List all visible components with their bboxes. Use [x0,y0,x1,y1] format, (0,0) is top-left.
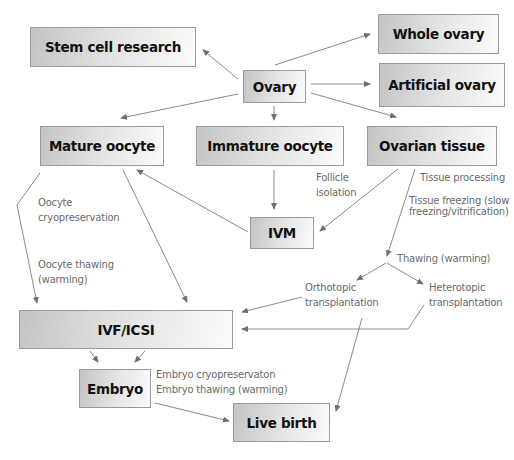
label-line: Tissue freezing (slow [409,195,509,206]
label-orthotopic-transplantation: Orthotopic transplantation [305,280,379,310]
arrow-thawing-to-heterotopic [387,263,423,284]
node-live-birth: Live birth [233,403,330,442]
label-line: Orthotopic [305,280,379,295]
label-line: Heterotopic [429,280,503,295]
label-line: isolation [316,185,356,200]
node-whole-ovary: Whole ovary [378,14,499,54]
node-label: IVM [268,225,296,241]
label-line: freezing/vitrification) [409,206,509,217]
arrow-ivf-to-embryo-2 [135,351,145,362]
arrow-thawing-to-orthotopic [357,263,386,280]
node-ovary: Ovary [243,70,306,103]
label-line: Embryo thawing (warming) [156,382,287,397]
node-label: Stem cell research [45,39,181,55]
label-line: Oocyte thawing [38,257,114,272]
label-line: Tissue processing [420,170,505,185]
node-label: IVF/ICSI [97,322,154,338]
arrow-embryo-to-livebirth [155,403,229,421]
label-tissue-processing: Tissue processing [420,170,505,185]
label-line: Embryo cryopreservaton [156,367,287,382]
node-stem-cell-research: Stem cell research [30,27,196,67]
label-follicle-isolation: Follicle isolation [316,170,356,200]
label-line: transplantation [429,295,503,310]
arrow-orthotopic-to-livebirth [336,318,362,411]
arrow-mature-cryo-to-ivf [17,173,40,303]
node-label: Live birth [247,415,317,431]
arrow-ovary-to-stem [203,50,238,79]
arrow-ivm-to-mature [137,170,248,232]
node-label: Embryo [87,381,143,397]
node-label: Ovarian tissue [379,138,485,154]
node-artificial-ovary: Artificial ovary [379,63,505,107]
label-oocyte-cryopreservation: Oocyte cryopreservation [38,195,120,225]
label-heterotopic-transplantation: Heterotopic transplantation [429,280,503,310]
arrow-ovary-to-mature [121,94,238,118]
node-ovarian-tissue: Ovarian tissue [367,126,497,166]
node-immature-oocyte: Immature oocyte [196,126,344,166]
label-line: transplantation [305,295,379,310]
node-label: Mature oocyte [49,138,155,154]
arrow-ivf-to-embryo-1 [90,351,98,362]
node-mature-oocyte: Mature oocyte [40,126,164,166]
arrow-ovary-to-whole [275,34,370,65]
label-line: (warming) [38,272,114,287]
node-label: Artificial ovary [388,77,496,93]
node-label: Immature oocyte [207,138,332,154]
label-oocyte-thawing: Oocyte thawing (warming) [38,257,114,287]
ovary-flow-diagram: Stem cell research Whole ovary Ovary Art… [0,0,514,460]
label-thawing: Thawing (warming) [397,251,490,266]
label-tissue-freezing: Tissue freezing (slow freezing/vitrifica… [409,195,509,217]
label-line: cryopreservation [38,210,120,225]
label-line: Oocyte [38,195,120,210]
arrow-mature-to-ivf [123,170,187,302]
node-label: Ovary [253,79,296,95]
node-embryo: Embryo [79,369,151,408]
label-line: Thawing (warming) [397,251,490,266]
arrow-orthotopic-to-ivf [242,297,302,312]
node-label: Whole ovary [393,26,485,42]
label-embryo-cryo-thaw: Embryo cryopreservaton Embryo thawing (w… [156,367,287,397]
node-ivf-icsi: IVF/ICSI [19,310,233,349]
label-line: Follicle [316,170,356,185]
node-ivm: IVM [250,217,314,249]
